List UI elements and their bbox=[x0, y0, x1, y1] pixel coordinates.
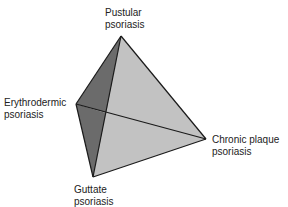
label-line: psoriasis bbox=[74, 196, 113, 207]
label-chronic-plaque: Chronic plaque psoriasis bbox=[212, 134, 279, 158]
label-line: psoriasis bbox=[105, 19, 144, 31]
label-line: Chronic plaque bbox=[212, 134, 279, 146]
label-line: Guttate bbox=[74, 184, 113, 196]
label-guttate: Guttate psoriasis bbox=[74, 184, 113, 207]
label-line: psoriasis bbox=[4, 109, 66, 121]
label-pustular: Pustular psoriasis bbox=[105, 7, 144, 31]
label-line: Erythrodermic bbox=[4, 97, 66, 109]
label-line: psoriasis bbox=[212, 146, 279, 158]
tetrahedron-diagram: Pustular psoriasis Erythrodermic psorias… bbox=[0, 0, 288, 207]
label-line: Pustular bbox=[105, 7, 144, 19]
label-erythrodermic: Erythrodermic psoriasis bbox=[4, 97, 66, 121]
